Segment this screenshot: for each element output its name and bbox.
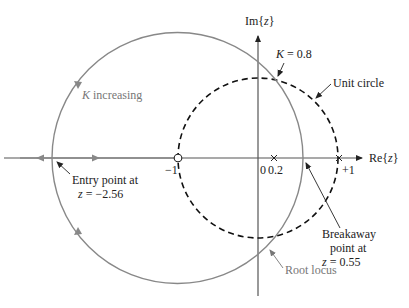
root-locus-diagram: −1 0 0.2 +1 Re{z} Im{z} K increasing K =…: [0, 0, 409, 308]
entry-point-pointer: [57, 162, 70, 174]
tick-point-two: 0.2: [268, 163, 283, 177]
breakaway-label-line2: point at: [330, 241, 367, 255]
unit-circle-label: Unit circle: [333, 76, 384, 90]
arrow-left-icon: [36, 155, 44, 162]
entry-point-label-line1: Entry point at: [72, 173, 139, 187]
tick-minus-one: −1: [165, 163, 178, 177]
tick-zero: 0: [260, 163, 266, 177]
unit-circle-pointer: [316, 84, 331, 98]
breakaway-pointer: [306, 163, 340, 228]
arrow-right-icon: [92, 155, 100, 162]
zero-marker-icon: [174, 154, 182, 162]
entry-point-label-line2: z = −2.56: [77, 187, 123, 201]
k-value-label: K = 0.8: [275, 47, 312, 61]
root-locus-pointer: [270, 250, 283, 268]
k-increasing-label: K increasing: [81, 88, 142, 102]
real-axis-label: Re{z}: [369, 151, 399, 165]
root-locus-label: Root locus: [285, 263, 337, 277]
breakaway-label-line1: Breakaway: [322, 227, 376, 241]
k-value-pointer: [278, 63, 284, 76]
tick-plus-one: +1: [342, 163, 355, 177]
imaginary-axis-label: Im{z}: [245, 14, 275, 28]
